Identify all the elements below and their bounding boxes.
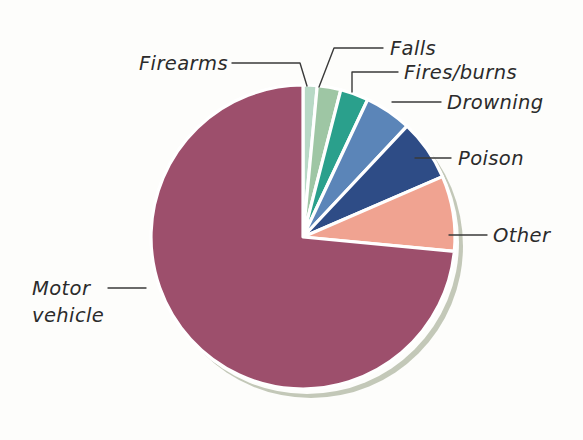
pie-label-firearms: Firearms	[139, 52, 228, 75]
pie-label-motor-vehicle-line1: Motor	[32, 277, 92, 300]
pie-chart-canvas: Firearms Falls Fires/burns Drowning Pois…	[0, 0, 583, 440]
leader-line-firearms	[232, 63, 307, 86]
pie-label-fires-burns: Fires/burns	[404, 61, 517, 84]
leader-line-falls	[319, 48, 383, 87]
pie-chart-figure: Firearms Falls Fires/burns Drowning Pois…	[0, 0, 583, 440]
pie-label-motor-vehicle-line2: vehicle	[32, 304, 104, 327]
pie-slices-group	[151, 85, 455, 389]
pie-label-falls: Falls	[390, 37, 436, 60]
pie-label-other: Other	[493, 224, 552, 247]
pie-label-poison: Poison	[458, 147, 524, 170]
pie-label-drowning: Drowning	[447, 91, 544, 114]
leader-line-fires-burns	[352, 72, 398, 92]
